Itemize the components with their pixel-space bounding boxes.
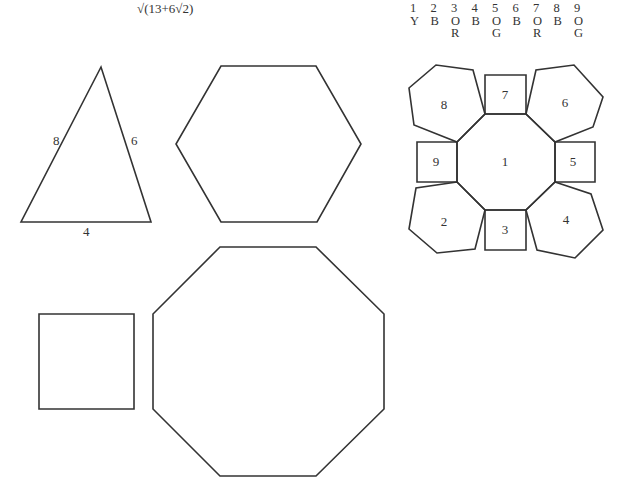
- triangle-side-label: 8: [53, 133, 60, 148]
- net-face-label: 9: [433, 154, 440, 169]
- net-face-label: 1: [502, 154, 509, 169]
- net-face-label: 5: [570, 154, 577, 169]
- net-face-label: 2: [441, 214, 448, 229]
- hexagon-shape: [176, 66, 361, 222]
- octagon-shape: [153, 247, 384, 476]
- polyhedron-net: 123456789: [409, 65, 603, 258]
- net-face-label: 3: [502, 222, 509, 237]
- net-face-label: 6: [562, 95, 569, 110]
- geometry-canvas: 8 6 4 123456789: [0, 0, 622, 498]
- triangle-side-label: 6: [131, 133, 138, 148]
- triangle-side-label: 4: [83, 224, 90, 239]
- net-face-label: 8: [441, 97, 448, 112]
- net-face-label: 4: [563, 212, 570, 227]
- net-face-label: 7: [502, 87, 509, 102]
- square-shape: [39, 314, 134, 409]
